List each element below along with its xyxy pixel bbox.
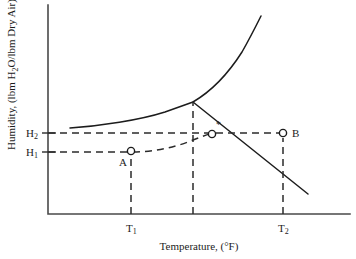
- data-point-a: [127, 147, 134, 154]
- data-point-c-star-label: *: [216, 119, 221, 130]
- saturation-curve: [70, 16, 261, 128]
- data-point-b: [279, 129, 286, 136]
- x-axis-label: Temperature, (°F): [160, 240, 239, 253]
- x-tick-label-t2: T2: [278, 222, 289, 236]
- y-tick-label-h2-base: H: [26, 127, 34, 139]
- y-tick-label-h1-base: H: [26, 146, 34, 158]
- chart-svg: Humidity, (lbm H2O/lbm Dry Air) Temperat…: [0, 0, 356, 259]
- y-tick-label-h2: H2: [26, 127, 38, 141]
- data-point-c: [208, 130, 215, 137]
- x-tick-label-t1-sub: 1: [133, 227, 137, 236]
- y-tick-label-h2-sub: 2: [34, 132, 38, 141]
- data-point-a-label: A: [119, 156, 127, 168]
- y-tick-label-h1: H1: [26, 146, 38, 160]
- psychrometric-chart: Humidity, (lbm H2O/lbm Dry Air) Temperat…: [0, 0, 356, 259]
- x-tick-label-t1: T1: [126, 222, 137, 236]
- adiabatic-saturation-line: [193, 102, 308, 194]
- data-point-b-label: B: [292, 127, 299, 139]
- humidification-path-a-to-c: [133, 134, 210, 152]
- y-axis-label-part1: Humidity, (lbm H: [5, 72, 18, 150]
- y-axis-label: Humidity, (lbm H2O/lbm Dry Air): [5, 0, 20, 150]
- chart-axes: [48, 5, 350, 214]
- y-tick-label-h1-sub: 1: [34, 151, 38, 160]
- y-axis-label-part2: O/lbm Dry Air): [5, 0, 18, 68]
- x-tick-label-t2-sub: 2: [285, 227, 289, 236]
